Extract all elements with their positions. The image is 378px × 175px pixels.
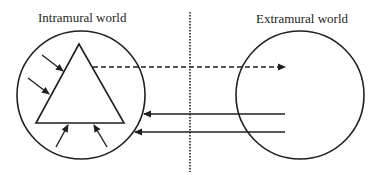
intramural-extramural-diagram: Intramural world Extramural world	[0, 0, 378, 175]
inner-arrow-bottom-right	[94, 125, 107, 147]
inner-arrow-bottom-left	[56, 125, 68, 147]
extramural-circle	[236, 31, 364, 159]
inner-arrow-left-upper	[42, 55, 63, 71]
inner-arrow-left-lower	[28, 78, 49, 94]
intramural-circle	[17, 31, 145, 159]
intramural-world-label: Intramural world	[38, 10, 126, 26]
extramural-world-label: Extramural world	[256, 11, 348, 27]
inner-triangle	[36, 44, 124, 123]
